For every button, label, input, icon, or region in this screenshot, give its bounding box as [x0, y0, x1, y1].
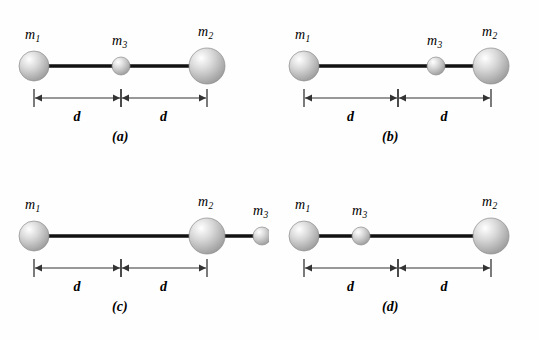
label-m2: m2	[482, 25, 497, 42]
label-distance-left: d	[74, 280, 81, 294]
label-m3: m3	[253, 204, 268, 221]
sphere-m1	[289, 51, 319, 81]
dimension-right	[121, 259, 207, 277]
panel-a-graphics	[0, 0, 269, 170]
panel-b-graphics	[270, 0, 539, 170]
label-m3: m3	[427, 34, 442, 51]
label-m2: m2	[198, 195, 213, 212]
label-m1: m1	[295, 198, 310, 215]
label-distance-left: d	[74, 110, 81, 124]
sphere-m3	[427, 57, 445, 75]
sphere-m2	[189, 48, 225, 84]
dimension-left	[34, 259, 121, 277]
panel-b: m1m3m2dd(b)	[270, 0, 539, 170]
panel-c-graphics	[0, 170, 269, 340]
dimension-right	[398, 259, 491, 277]
label-m2: m2	[482, 195, 497, 212]
sphere-m1	[289, 221, 319, 251]
label-distance-right: d	[160, 280, 167, 294]
panel-letter-a: (a)	[112, 130, 128, 144]
label-m3: m3	[352, 204, 367, 221]
label-m1: m1	[295, 28, 310, 45]
panel-d-graphics	[270, 170, 539, 340]
sphere-m2	[473, 48, 509, 84]
panel-letter-b: (b)	[382, 130, 398, 144]
label-distance-right: d	[441, 280, 448, 294]
sphere-m3	[112, 57, 130, 75]
label-distance-left: d	[347, 110, 354, 124]
label-m2: m2	[198, 25, 213, 42]
label-distance-right: d	[441, 110, 448, 124]
label-m1: m1	[25, 28, 40, 45]
dimension-left	[304, 259, 398, 277]
dimension-left	[34, 89, 121, 107]
panel-letter-d: (d)	[382, 300, 398, 314]
sphere-m1	[19, 221, 49, 251]
label-m3: m3	[112, 34, 127, 51]
panel-c: m1m2m3dd(c)	[0, 170, 269, 340]
label-distance-left: d	[347, 280, 354, 294]
label-distance-right: d	[160, 110, 167, 124]
sphere-m2	[473, 218, 509, 254]
label-m1: m1	[25, 198, 40, 215]
panel-a: m1m3m2dd(a)	[0, 0, 269, 170]
sphere-m1	[19, 51, 49, 81]
dimension-right	[398, 89, 491, 107]
dimension-left	[304, 89, 398, 107]
dimension-right	[121, 89, 207, 107]
panel-letter-c: (c)	[112, 300, 128, 314]
sphere-m3	[253, 227, 269, 245]
sphere-m2	[189, 218, 225, 254]
panel-d: m1m3m2dd(d)	[270, 170, 539, 340]
mass-configurations-figure: m1m3m2dd(a)m1m3m2dd(b)m1m2m3dd(c)m1m3m2d…	[0, 0, 539, 340]
sphere-m3	[352, 227, 370, 245]
